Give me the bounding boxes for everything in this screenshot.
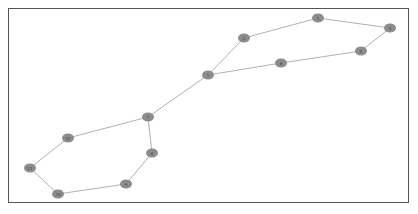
- nodes-layer: 123456789101112: [24, 14, 396, 199]
- edge-10-11: [30, 168, 58, 194]
- node-label: 1: [207, 73, 210, 78]
- edge-9-10: [58, 184, 126, 194]
- edges-layer: [30, 18, 390, 194]
- node-1: 1: [202, 71, 214, 80]
- node-label: 9: [125, 182, 128, 187]
- edge-1-7: [148, 75, 208, 117]
- edge-1-2: [208, 38, 244, 75]
- node-8: 8: [146, 149, 158, 158]
- edge-6-1: [208, 63, 281, 75]
- node-12: 12: [62, 134, 74, 143]
- edge-5-6: [281, 51, 361, 63]
- node-label: 7: [147, 115, 150, 120]
- node-label: 2: [243, 36, 246, 41]
- node-label: 11: [27, 166, 33, 171]
- node-label: 3: [317, 16, 320, 21]
- node-label: 6: [280, 61, 283, 66]
- node-label: 5: [360, 49, 363, 54]
- network-graph: 123456789101112: [0, 0, 418, 214]
- node-6: 6: [275, 59, 287, 68]
- edge-8-9: [126, 153, 152, 184]
- edge-2-3: [244, 18, 318, 38]
- node-3: 3: [312, 14, 324, 23]
- node-label: 10: [55, 192, 61, 197]
- node-label: 4: [389, 26, 392, 31]
- edge-12-7: [68, 117, 148, 138]
- node-9: 9: [120, 180, 132, 189]
- edge-4-5: [361, 28, 390, 51]
- node-4: 4: [384, 24, 396, 33]
- node-2: 2: [238, 34, 250, 43]
- node-5: 5: [355, 47, 367, 56]
- edge-11-12: [30, 138, 68, 168]
- node-7: 7: [142, 113, 154, 122]
- edge-7-8: [148, 117, 152, 153]
- node-label: 8: [151, 151, 154, 156]
- edge-3-4: [318, 18, 390, 28]
- node-10: 10: [52, 190, 64, 199]
- node-label: 12: [65, 136, 71, 141]
- node-11: 11: [24, 164, 36, 173]
